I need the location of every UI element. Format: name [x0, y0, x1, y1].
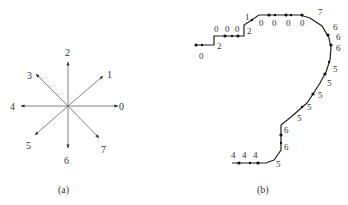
dir-label-7: 7	[101, 144, 106, 155]
chain-label: 0	[259, 18, 264, 28]
chain-label: 4	[231, 150, 236, 160]
chain-label: 2	[247, 26, 252, 36]
arrow-3	[36, 74, 68, 106]
chain-label: 0	[199, 51, 204, 61]
chain-label: 0	[286, 18, 291, 28]
chain-label: 5	[307, 102, 312, 112]
caption-a: (a)	[58, 184, 69, 196]
dir-label-6: 6	[64, 155, 69, 166]
chain-label: 2	[217, 41, 222, 51]
chain-label: 5	[333, 64, 338, 74]
chain-label: 0	[235, 24, 240, 34]
chain-code-figure: 0 1 2 3 4 5 6 7 (a) 0 2 0 0 0 2 1 0 0 0 …	[0, 0, 348, 205]
dir-label-0: 0	[119, 101, 124, 112]
chain-label: 5	[297, 113, 302, 123]
chain-label: 6	[284, 125, 289, 135]
chain-label: 6	[336, 43, 341, 53]
chain-label: 5	[327, 78, 332, 88]
chain-label: 4	[242, 150, 247, 160]
arrow-1	[68, 76, 103, 106]
dir-label-4: 4	[10, 101, 15, 112]
dir-label-5: 5	[26, 140, 31, 151]
chain-label: 0	[214, 24, 219, 34]
arrow-7	[68, 106, 99, 138]
chain-label: 6	[336, 32, 341, 42]
chain-code-path	[196, 15, 331, 163]
chain-label: 6	[333, 22, 338, 32]
caption-b: (b)	[257, 184, 269, 196]
chain-label: 7	[318, 7, 323, 17]
chain-label: 0	[225, 24, 230, 34]
chain-label: 5	[318, 90, 323, 100]
dir-label-2: 2	[65, 47, 70, 58]
dir-label-3: 3	[27, 70, 32, 81]
dir-label-1: 1	[107, 69, 112, 80]
chain-label: 0	[272, 18, 277, 28]
chain-label: 5	[276, 159, 281, 169]
chain-label: 0	[300, 18, 305, 28]
chain-label: 4	[253, 150, 258, 160]
chain-label: 6	[284, 142, 289, 152]
direction-diagram	[21, 62, 118, 148]
chain-labels: 0 2 0 0 0 2 1 0 0 0 0 7 6 6 6 5 5 5 5 5 …	[199, 7, 341, 169]
chain-label: 1	[245, 12, 250, 22]
arrow-5	[35, 106, 68, 135]
